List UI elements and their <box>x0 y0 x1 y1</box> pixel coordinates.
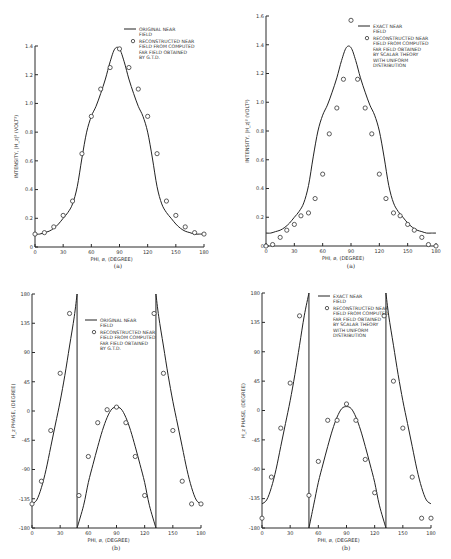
y-tick-label: 0.6 <box>25 158 33 164</box>
data-point-marker <box>80 152 84 156</box>
y-tick-label: -45 <box>22 437 30 443</box>
legend-entry-line: EXACT NEARFIELD <box>373 24 403 34</box>
x-tick-label: 60 <box>85 530 91 536</box>
data-point-marker <box>377 172 381 176</box>
data-point-marker <box>96 421 100 425</box>
series-line <box>156 294 201 504</box>
data-point-marker <box>297 314 301 318</box>
data-point-marker <box>316 459 320 463</box>
data-point-marker <box>49 428 53 432</box>
data-point-marker <box>292 222 296 226</box>
data-point-marker <box>193 231 197 235</box>
data-point-marker <box>373 491 377 495</box>
data-point-marker <box>363 457 367 461</box>
panel-label: (a) <box>114 262 122 269</box>
x-tick-label: 180 <box>196 530 206 536</box>
data-point-marker <box>271 242 275 246</box>
data-point-marker <box>429 516 433 520</box>
data-point-marker <box>199 502 203 506</box>
data-point-marker <box>52 225 56 229</box>
legend-marker-swatch <box>325 306 328 309</box>
data-point-marker <box>202 232 206 236</box>
data-point-marker <box>152 311 156 315</box>
data-point-marker <box>313 196 317 200</box>
data-point-marker <box>180 479 184 483</box>
series-line <box>309 407 386 528</box>
x-tick-label: 30 <box>57 530 63 536</box>
data-point-marker <box>412 228 416 232</box>
x-tick-label: 30 <box>291 248 297 254</box>
data-point-marker <box>33 232 37 236</box>
data-point-marker <box>127 65 131 69</box>
x-tick-label: 30 <box>287 530 293 536</box>
y-tick-label: 45 <box>254 378 260 384</box>
data-point-marker <box>155 152 159 156</box>
data-point-marker <box>171 428 175 432</box>
y-tick-label: 0.8 <box>25 129 33 135</box>
data-point-marker <box>327 132 331 136</box>
data-point-marker <box>420 516 424 520</box>
data-point-marker <box>349 18 353 22</box>
y-tick-label: 0.2 <box>256 214 264 220</box>
data-point-marker <box>183 225 187 229</box>
legend-entry-marker: RECONSTRUCTED NEARFIELD FROM COMPUTEDFAR… <box>100 330 156 352</box>
data-point-marker <box>30 502 34 506</box>
data-point-marker <box>67 311 71 315</box>
data-point-marker <box>406 222 410 226</box>
data-point-marker <box>77 493 81 497</box>
series-line <box>77 407 156 528</box>
data-point-marker <box>410 475 414 479</box>
y-tick-label: 0.4 <box>25 186 33 192</box>
y-tick-label: 180 <box>250 290 260 296</box>
data-point-marker <box>269 475 273 479</box>
y-tick-label: 1.4 <box>25 43 33 49</box>
data-point-marker <box>260 516 264 520</box>
data-point-marker <box>420 235 424 239</box>
y-tick-label: 90 <box>254 349 260 355</box>
y-tick-label: 0.2 <box>25 215 33 221</box>
figure-canvas: 030609012015018000.20.40.60.81.01.21.4PH… <box>0 0 451 559</box>
x-tick-label: 0 <box>264 248 267 254</box>
chart-intensity-gtd: 030609012015018000.20.40.60.81.01.21.4PH… <box>13 27 209 269</box>
data-point-marker <box>285 228 289 232</box>
y-tick-label: 135 <box>250 319 260 325</box>
data-point-marker <box>344 402 348 406</box>
data-point-marker <box>99 87 103 91</box>
data-point-marker <box>86 454 90 458</box>
x-tick-label: 60 <box>319 248 325 254</box>
x-tick-label: 0 <box>30 530 33 536</box>
panel-label: (b) <box>342 544 351 551</box>
data-point-marker <box>108 65 112 69</box>
data-point-marker <box>70 199 74 203</box>
legend-marker-swatch <box>365 36 368 39</box>
data-point-marker <box>278 235 282 239</box>
y-tick-label: 90 <box>24 349 30 355</box>
series-line <box>386 293 431 504</box>
x-axis-label: PHI, ø, (DEGREE) <box>90 256 132 262</box>
legend-entry-line: EXACT NEARFIELD <box>333 294 363 305</box>
x-tick-label: 120 <box>370 530 380 536</box>
legend-entry-marker: RECONSTRUCTED NEARFIELD FROM COMPUTEDFAR… <box>333 306 389 339</box>
data-point-marker <box>161 371 165 375</box>
legend-entry-line: ORIGINAL NEARFIELD <box>139 27 176 37</box>
series-line <box>262 293 309 504</box>
legend-marker-swatch <box>131 39 134 42</box>
y-axis-label: H_z PHASE, (DEGREE) <box>240 383 247 438</box>
data-point-marker <box>58 371 62 375</box>
y-tick-label: 1.4 <box>256 42 264 48</box>
data-point-marker <box>288 381 292 385</box>
y-axis-label: INTENSITY, |H_z|² (VOLT²) <box>13 115 20 178</box>
x-axis-label: PHI, ø, (DEGREE) <box>322 255 364 261</box>
data-point-marker <box>363 106 367 110</box>
legend-entry-line: ORIGINAL NEARFIELD <box>100 318 137 329</box>
y-tick-label: -90 <box>252 466 260 472</box>
legend-entry-marker: RECONSTRUCTED NEARFIELD FROM COMPUTEDFAR… <box>373 36 429 69</box>
data-point-marker <box>335 106 339 110</box>
data-point-marker <box>174 213 178 217</box>
data-point-marker <box>143 493 147 497</box>
data-point-marker <box>39 479 43 483</box>
x-tick-label: 120 <box>143 249 153 255</box>
data-point-marker <box>356 77 360 81</box>
x-tick-label: 90 <box>348 248 354 254</box>
data-point-marker <box>164 199 168 203</box>
